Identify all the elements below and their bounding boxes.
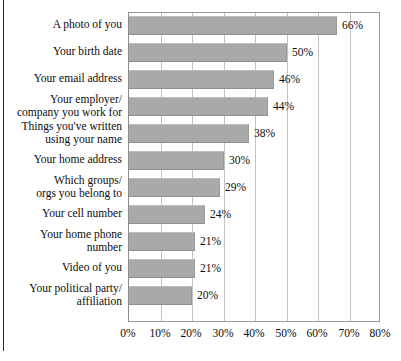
bar-row: 24% xyxy=(129,203,381,230)
x-tick-label: 0% xyxy=(120,326,135,340)
bar-value-label: 30% xyxy=(229,152,250,168)
bar-value-label: 24% xyxy=(210,206,231,222)
plot-area: 66%50%46%44%38%30%29%24%21%21%20% xyxy=(128,12,380,322)
category-label: Video of you xyxy=(4,261,128,274)
x-tick-label: 10% xyxy=(149,326,170,340)
bar-row: 44% xyxy=(129,95,381,122)
x-tick-label: 40% xyxy=(243,326,264,340)
x-tick-label: 70% xyxy=(338,326,359,340)
category-label: Your home phone number xyxy=(4,228,128,253)
bar-value-label: 21% xyxy=(200,260,221,276)
bar-value-label: 38% xyxy=(254,125,275,141)
bar xyxy=(129,97,268,116)
bar-row: 20% xyxy=(129,284,381,311)
bar-row: 29% xyxy=(129,176,381,203)
bar-row: 21% xyxy=(129,230,381,257)
x-tick-label: 80% xyxy=(369,326,390,340)
category-label: Your email address xyxy=(4,72,128,85)
horizontal-bar-chart: A photo of youYour birth dateYour email … xyxy=(0,0,401,361)
bar-row: 46% xyxy=(129,68,381,95)
category-label: Your home address xyxy=(4,153,128,166)
bar-value-label: 29% xyxy=(225,179,246,195)
category-label: A photo of you xyxy=(4,18,128,31)
x-tick-label: 50% xyxy=(275,326,296,340)
bar xyxy=(129,43,287,62)
category-label: Which groups/ orgs you belong to xyxy=(4,174,128,199)
bar xyxy=(129,151,224,170)
bar xyxy=(129,178,220,197)
x-tick-label: 20% xyxy=(180,326,201,340)
category-axis-labels: A photo of youYour birth dateYour email … xyxy=(0,12,128,322)
x-tick-label: 30% xyxy=(212,326,233,340)
category-label: Your cell number xyxy=(4,207,128,220)
category-label: Your employer/ company you work for xyxy=(4,93,128,118)
bar-value-label: 50% xyxy=(292,44,313,60)
bar xyxy=(129,286,192,305)
bar-row: 50% xyxy=(129,41,381,68)
bar-value-label: 66% xyxy=(342,17,363,33)
bar xyxy=(129,259,195,278)
bar-value-label: 46% xyxy=(279,71,300,87)
bar xyxy=(129,70,274,89)
bar-row: 21% xyxy=(129,257,381,284)
bar-row: 30% xyxy=(129,149,381,176)
bar-value-label: 21% xyxy=(200,233,221,249)
bar xyxy=(129,205,205,224)
bar xyxy=(129,16,337,35)
bar-value-label: 20% xyxy=(197,287,218,303)
x-tick-label: 60% xyxy=(306,326,327,340)
category-label: Things you've written using your name xyxy=(4,120,128,145)
bar-row: 38% xyxy=(129,122,381,149)
x-axis-tick-labels: 0%10%20%30%40%50%60%70%80% xyxy=(128,326,380,344)
bar-value-label: 44% xyxy=(273,98,294,114)
bar xyxy=(129,124,249,143)
category-label: Your political party/ affiliation xyxy=(4,282,128,307)
bar-row: 66% xyxy=(129,14,381,41)
category-label: Your birth date xyxy=(4,45,128,58)
bar xyxy=(129,232,195,251)
